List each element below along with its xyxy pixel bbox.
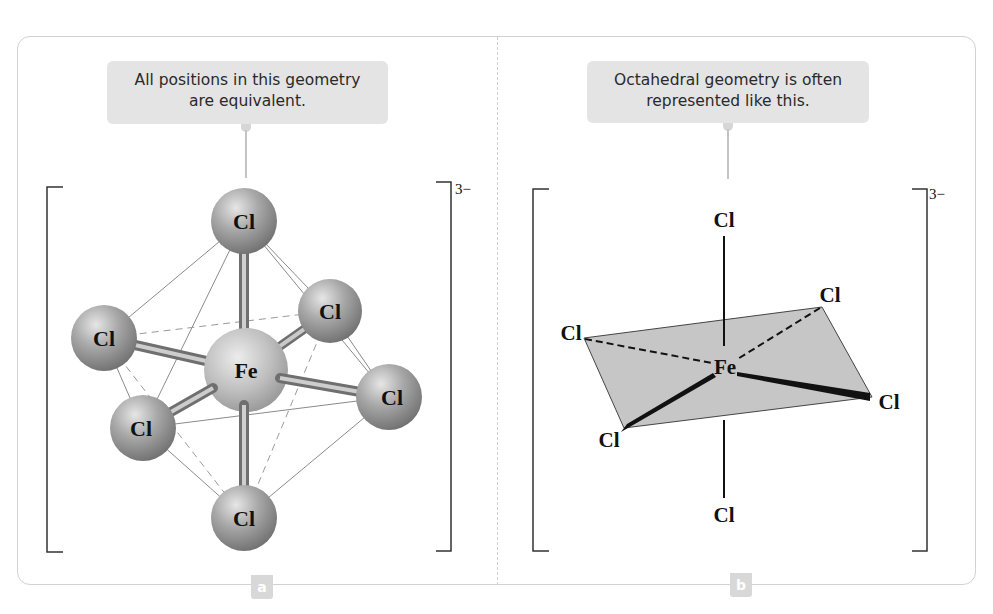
panel-a-fe-center: Fe <box>204 328 288 412</box>
svg-text:Cl: Cl <box>381 385 403 410</box>
panel-b-cl-top: Cl <box>714 208 735 232</box>
panel-a-cl-top: Cl <box>211 188 277 254</box>
panel-a-cl-front-left: Cl <box>110 388 213 461</box>
svg-text:Cl: Cl <box>233 506 255 531</box>
panel-a-cl-right: Cl <box>280 364 422 430</box>
panel-b-cl-right: Cl <box>879 390 900 414</box>
panel-b-cl-bottom: Cl <box>714 503 735 527</box>
panel-b-charge: 3− <box>929 186 945 202</box>
svg-text:Cl: Cl <box>93 326 115 351</box>
panel-b-cl-left: Cl <box>561 321 582 345</box>
svg-text:Cl: Cl <box>233 209 255 234</box>
svg-text:Cl: Cl <box>319 299 341 324</box>
svg-text:Cl: Cl <box>130 416 152 441</box>
panel-a-cl-bottom: Cl <box>211 405 277 551</box>
panel-b-tag: b <box>730 573 752 597</box>
molecule-drawings: 3− Cl Cl Cl <box>0 0 993 614</box>
panel-b-cl-front-left: Cl <box>599 428 620 452</box>
panel-a-charge: 3− <box>455 181 471 197</box>
panel-a-tag: a <box>251 575 273 599</box>
panel-b-fe-center: Fe <box>714 355 736 379</box>
panel-b-cl-back-right: Cl <box>820 283 841 307</box>
svg-text:Fe: Fe <box>234 358 257 383</box>
